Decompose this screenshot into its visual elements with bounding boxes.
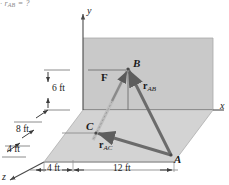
r-ac-subscript: AC [103,144,112,152]
force-label-f: F [101,72,108,83]
dimension-label-12ft: 12 ft [113,164,131,174]
top-formula-tail: = ? [15,0,29,8]
axis-label-x: x [220,101,224,111]
point-label-b: B [133,58,140,69]
z-axis [10,162,44,180]
top-formula-text: · r [0,0,8,8]
dimension-label-6ft: 6 ft [52,84,65,94]
dimension-label-8ft: 8 ft [16,125,29,135]
r-ab-subscript: AB [147,85,156,93]
vector-mechanics-diagram: · rAB = ? y x z B C A F rAB rAC 6 ft 8 f… [0,0,229,185]
diagram-canvas [0,0,229,185]
ground-plane [44,110,213,162]
dimension-label-4ft-base: 4 ft [47,164,60,174]
axis-label-z: z [2,172,6,182]
axis-label-y: y [87,6,91,16]
top-formula-fragment: · rAB = ? [0,0,30,8]
vector-label-r-ac: rAC [99,140,112,152]
dimension-label-4ft-depth: 4 ft [7,145,20,155]
point-label-a: A [174,154,181,165]
vector-label-r-ab: rAB [143,81,156,93]
point-label-c: C [86,121,93,132]
